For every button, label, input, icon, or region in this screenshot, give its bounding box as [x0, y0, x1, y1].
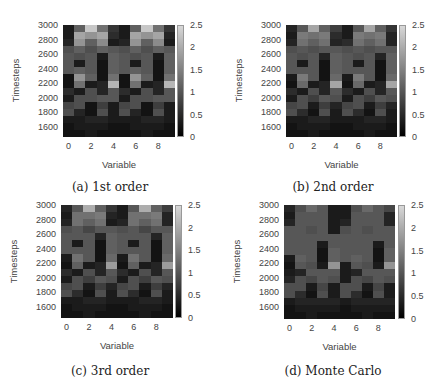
- heatmap-cell: [74, 32, 85, 39]
- heatmap-cell: [108, 116, 119, 123]
- heatmap-cell: [117, 297, 128, 304]
- heatmap-cell: [128, 219, 139, 226]
- heatmap-cell: [63, 39, 74, 46]
- heatmap-cell: [351, 212, 362, 219]
- heatmap-cell: [164, 116, 175, 123]
- heatmap-cell: [284, 262, 295, 269]
- heatmap-cell: [153, 74, 164, 81]
- heatmap-cell: [130, 25, 141, 32]
- heatmap-cell: [353, 32, 364, 39]
- heatmap-cell: [340, 205, 351, 212]
- heatmap-cell: [117, 290, 128, 297]
- heatmap-cell: [384, 219, 395, 226]
- x-tick-label: 0: [282, 323, 298, 333]
- heatmap-cell: [153, 81, 164, 88]
- heatmap-cell: [306, 283, 317, 290]
- heatmap-cell: [308, 39, 319, 46]
- x-tick-label: 8: [150, 141, 166, 151]
- heatmap-cell: [351, 291, 362, 298]
- x-tick-label: 0: [284, 141, 300, 151]
- heatmap-cell: [340, 234, 351, 241]
- heatmap-cell: [139, 304, 150, 311]
- heatmap-cell: [297, 25, 308, 32]
- heatmap-cell: [97, 74, 108, 81]
- heatmap-cell: [130, 32, 141, 39]
- heatmap-cell: [83, 297, 94, 304]
- x-tick-label: 8: [148, 322, 164, 332]
- x-tick-label: 6: [126, 322, 142, 332]
- heatmap-cell: [72, 262, 83, 269]
- heatmap-cell: [164, 32, 175, 39]
- heatmap-cell: [297, 130, 308, 137]
- x-tick-label: 2: [306, 141, 322, 151]
- colorbar-tick-label: 1: [412, 87, 417, 97]
- heatmap-cell: [306, 305, 317, 312]
- heatmap-cell: [373, 283, 384, 290]
- heatmap-cell: [340, 312, 351, 319]
- heatmap: [284, 205, 395, 319]
- heatmap-cell: [128, 240, 139, 247]
- heatmap-cell: [373, 241, 384, 248]
- heatmap-cell: [74, 67, 85, 74]
- heatmap-cell: [128, 276, 139, 283]
- colorbar-tick-label: 0.5: [190, 110, 203, 120]
- heatmap-cell: [119, 53, 130, 60]
- heatmap-cell: [295, 269, 306, 276]
- heatmap-cell: [286, 88, 297, 95]
- heatmap-cell: [330, 102, 341, 109]
- y-tick-label: 1800: [26, 287, 56, 297]
- heatmap-cell: [141, 123, 152, 130]
- heatmap-cell: [384, 276, 395, 283]
- heatmap-cell: [284, 205, 295, 212]
- heatmap-cell: [297, 102, 308, 109]
- heatmap-cell: [153, 39, 164, 46]
- heatmap-cell: [108, 88, 119, 95]
- heatmap-cell: [306, 276, 317, 283]
- heatmap-cell: [319, 53, 330, 60]
- heatmap-cell: [61, 233, 72, 240]
- heatmap-cell: [97, 67, 108, 74]
- heatmap-cell: [375, 60, 386, 67]
- heatmap-cell: [328, 262, 339, 269]
- colorbar: [398, 205, 405, 319]
- y-tick-label: 1600: [251, 122, 281, 132]
- heatmap-cell: [130, 123, 141, 130]
- heatmap-cell: [286, 109, 297, 116]
- heatmap-cell: [375, 116, 386, 123]
- x-tick-label: 6: [350, 141, 366, 151]
- y-axis-label: Timesteps: [233, 51, 244, 111]
- heatmap-cell: [151, 233, 162, 240]
- heatmap-cell: [284, 305, 295, 312]
- heatmap-cell: [63, 67, 74, 74]
- heatmap-cell: [151, 311, 162, 318]
- heatmap-cell: [139, 276, 150, 283]
- heatmap-cell: [306, 226, 317, 233]
- heatmap-cell: [295, 262, 306, 269]
- heatmap-cell: [97, 53, 108, 60]
- colorbar-tick-label: 2: [190, 42, 195, 52]
- heatmap-cell: [85, 130, 96, 137]
- heatmap-cell: [364, 88, 375, 95]
- heatmap-cell: [95, 311, 106, 318]
- heatmap-cell: [284, 255, 295, 262]
- heatmap-cell: [162, 311, 173, 318]
- heatmap-cell: [108, 25, 119, 32]
- heatmap-cell: [308, 25, 319, 32]
- x-tick-label: 2: [83, 141, 99, 151]
- heatmap-cell: [61, 262, 72, 269]
- y-tick-label: 2400: [251, 64, 281, 74]
- y-tick-label: 1800: [251, 107, 281, 117]
- heatmap-cell: [386, 130, 397, 137]
- heatmap-cell: [63, 74, 74, 81]
- heatmap-cell: [353, 81, 364, 88]
- heatmap-cell: [130, 81, 141, 88]
- heatmap-cell: [61, 290, 72, 297]
- heatmap-cell: [375, 102, 386, 109]
- heatmap-cell: [284, 276, 295, 283]
- heatmap-cell: [106, 269, 117, 276]
- heatmap-cell: [85, 95, 96, 102]
- heatmap-cell: [362, 219, 373, 226]
- heatmap-cell: [63, 116, 74, 123]
- heatmap-cell: [384, 291, 395, 298]
- heatmap-cell: [340, 262, 351, 269]
